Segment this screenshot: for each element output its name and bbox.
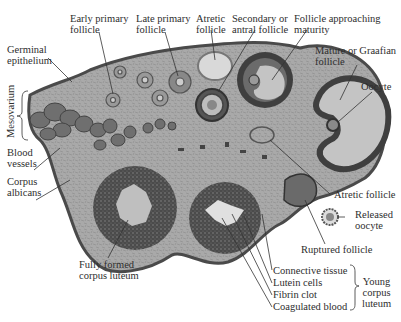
label-mesovarium: Mesovarium	[5, 85, 16, 138]
young-corpus-luteum-bracket	[350, 265, 359, 310]
oocyte-in-follicle	[327, 119, 339, 131]
label-ruptured-follicle: Ruptured follicle	[301, 244, 372, 255]
label-released-oocyte: Released oocyte	[355, 209, 393, 231]
label-fully-formed-corpus-luteum: Fully formed corpus luteum	[79, 259, 139, 281]
ruptured-follicle	[284, 174, 317, 206]
label-lutein-cells: Lutein cells	[273, 277, 322, 288]
label-connective-tissue: Connective tissue	[273, 265, 347, 276]
label-secondary-antral-follicle: Secondary or antral follicle	[232, 13, 288, 35]
secondary-follicle	[196, 89, 228, 121]
label-early-primary-follicle: Early primary follicle	[70, 13, 129, 35]
label-corpus-albicans: Corpus albicans	[7, 176, 41, 198]
fully-formed-corpus-luteum	[93, 166, 177, 250]
label-atretic-follicle-right: Atretic follicle	[334, 189, 396, 200]
label-oocyte: Oocyte	[361, 81, 391, 92]
label-germinal-epithelium: Germinal epithelium	[7, 44, 52, 66]
label-fibrin-clot: Fibrin clot	[273, 289, 317, 300]
label-blood-vessels: Blood vessels	[7, 147, 37, 169]
young-corpus-luteum	[189, 182, 261, 254]
label-follicle-approaching-maturity: Follicle approaching maturity	[294, 13, 381, 35]
mesovarium-bracket	[17, 91, 28, 140]
follicle-approaching-maturity	[237, 52, 293, 108]
label-coagulated-blood: Coagulated blood	[273, 301, 347, 312]
atretic-follicle-top	[198, 52, 232, 80]
released-oocyte	[322, 209, 338, 225]
label-mature-graafian-follicle: Mature or Graafian follicle	[315, 45, 396, 67]
label-late-primary-follicle: Late primary follicle	[136, 13, 191, 35]
label-atretic-follicle-top: Atretic follicle	[196, 13, 226, 35]
label-young-corpus-luteum: Young corpus luteum	[362, 276, 391, 309]
